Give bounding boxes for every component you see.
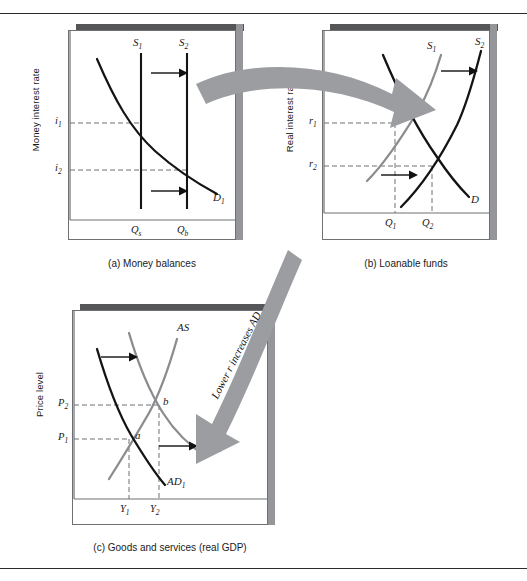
panel-money-balances: S1 S2 D1 i1 i2 Qs Qb Money interest rate… xyxy=(68,30,236,240)
shift-arrow-bottom xyxy=(159,442,198,451)
xtick-q2: Q2 xyxy=(422,217,433,231)
curve-label-as: AS xyxy=(177,321,189,336)
curve-label-d: D xyxy=(471,193,479,208)
curve-label-s2: S2 xyxy=(475,35,484,50)
ytick-i2: i2 xyxy=(55,162,62,176)
curve-label-ad2: AD2 xyxy=(203,439,221,454)
panel-plot-area: S1 S2 D xyxy=(322,30,490,240)
curve-label-s1: S1 xyxy=(133,36,142,51)
xtick-qb: Qb xyxy=(177,224,188,238)
curve-label-s2: S2 xyxy=(179,36,188,51)
xtick-y1: Y1 xyxy=(120,503,130,517)
ytick-p1: P1 xyxy=(58,431,68,445)
panel-plot-area: S1 S2 D1 xyxy=(68,30,236,240)
panel-loanable-funds: S1 S2 D r1 r2 Q1 Q2 Real interest rate (… xyxy=(322,30,490,240)
curve-s1 xyxy=(367,55,441,181)
axis-label-real-interest-rate: Real interest rate xyxy=(284,78,295,152)
ytick-i1: i1 xyxy=(55,115,62,129)
equilibrium-point-b: b xyxy=(163,395,169,407)
shift-arrow-bottom xyxy=(381,171,418,180)
curve-ad1 xyxy=(97,349,165,485)
equilibrium-point-a: a xyxy=(135,429,141,441)
ytick-p2: P2 xyxy=(58,397,68,411)
caption-panel-b: (b) Loanable funds xyxy=(322,258,490,269)
xtick-y2: Y2 xyxy=(150,503,160,517)
curve-label-s1: S1 xyxy=(427,39,436,54)
curve-label-d1: D1 xyxy=(213,191,225,206)
xtick-qs: Qs xyxy=(131,224,142,238)
page-rule-top xyxy=(0,13,527,14)
curve-label-ad1: AD1 xyxy=(167,475,185,490)
ytick-r1: r1 xyxy=(309,115,317,129)
page-rule-bottom xyxy=(0,568,527,569)
caption-panel-a: (a) Money balances xyxy=(68,258,236,269)
panel-a-graph xyxy=(69,31,237,241)
panel-b-graph xyxy=(323,31,491,241)
caption-panel-c: (c) Goods and services (real GDP) xyxy=(72,542,268,553)
axis-label-money-interest-rate: Money interest rate xyxy=(30,68,41,151)
shift-arrow-bottom xyxy=(151,187,188,196)
panel-shadow-right xyxy=(236,24,243,240)
shift-arrow-top xyxy=(441,67,478,76)
panel-shadow-right xyxy=(490,24,497,240)
shift-arrow-top xyxy=(101,353,138,362)
xtick-q1: Q1 xyxy=(385,217,396,231)
shift-arrow-top xyxy=(151,69,188,78)
panel-shadow-right xyxy=(268,304,275,525)
curve-d1 xyxy=(97,59,217,194)
ytick-r2: r2 xyxy=(309,158,317,172)
axis-label-price-level: Price level xyxy=(34,372,45,417)
